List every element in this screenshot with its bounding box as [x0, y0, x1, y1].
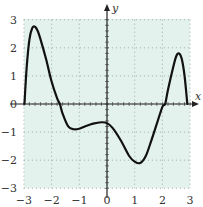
x-tick-label: 2: [159, 194, 166, 207]
y-tick-label: 1: [10, 70, 17, 83]
x-tick-label: −3: [16, 194, 32, 207]
y-tick-label: 2: [10, 42, 17, 55]
y-tick-label: −1: [1, 126, 17, 139]
y-tick-labels: 3210−1−2−3: [1, 14, 17, 196]
x-tick-label: −1: [71, 194, 87, 207]
y-tick-label: −3: [1, 182, 17, 195]
y-axis-arrow-icon: [104, 4, 110, 11]
y-tick-label: −2: [1, 154, 17, 167]
x-tick-labels: −3−2−10123: [16, 194, 194, 207]
function-plot: x y −3−2−10123 3210−1−2−3: [0, 0, 203, 207]
y-tick-label: 0: [10, 98, 17, 111]
x-tick-label: 1: [131, 194, 138, 207]
x-tick-label: 3: [187, 194, 194, 207]
x-tick-label: 0: [104, 194, 111, 207]
y-axis-label: y: [111, 2, 119, 15]
x-tick-label: −2: [43, 194, 59, 207]
x-axis-label: x: [195, 90, 202, 103]
y-tick-label: 3: [10, 14, 17, 27]
